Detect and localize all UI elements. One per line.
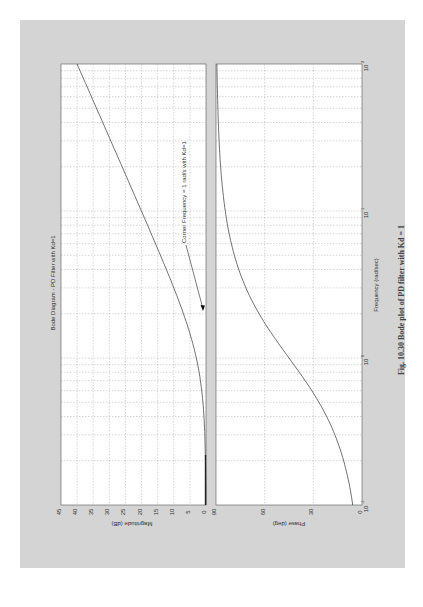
tick-label: 10: [363, 505, 369, 512]
tick-label: 45: [56, 508, 62, 515]
tick-label: 10: [363, 358, 369, 365]
tick-label: 10: [363, 211, 369, 218]
tick-label: 35: [88, 508, 94, 515]
tick-label: 90: [211, 508, 217, 515]
phase-axis-label: Phase (deg): [273, 521, 306, 527]
magnitude-plot: [61, 64, 206, 505]
frequency-axis-label: Frequency (rad/sec): [373, 258, 379, 312]
bode-figure: Corner Frequency = 1 rad/s with Kd=1 Bod…: [0, 0, 423, 607]
tick-label: 10: [169, 508, 175, 515]
tick-label: 30: [308, 508, 314, 515]
tick-label: 10: [363, 64, 369, 71]
tick-label: 20: [137, 508, 143, 515]
annotation-text: Corner Frequency = 1 rad/s with Kd=1: [181, 141, 187, 243]
figure-caption: Fig. 10.30 Bode plot of PD filter with K…: [397, 225, 406, 375]
tick-label: 60: [260, 508, 266, 515]
phase-plot: [216, 64, 362, 505]
chart-title: Bode Diagram - PD Filter with Kd=1: [50, 235, 56, 331]
tick-label: 30: [104, 508, 110, 515]
tick-label: 15: [153, 508, 159, 515]
tick-label: 40: [72, 508, 78, 515]
tick-label: 25: [120, 508, 126, 515]
magnitude-axis-label: Magnitude (dB): [111, 521, 152, 527]
